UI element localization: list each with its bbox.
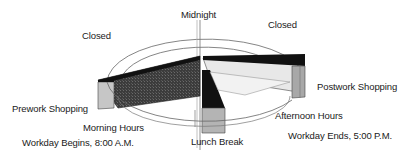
label-workday-ends: Workday Ends, 5:00 P.M. [288,130,392,141]
label-afternoon-hours: Afternoon Hours [275,110,343,121]
label-closed-left: Closed [82,30,111,41]
label-lunch-break: Lunch Break [191,136,243,147]
label-closed-right: Closed [268,19,297,30]
label-midnight: Midnight [181,9,216,20]
label-workday-begins: Workday Begins, 8:00 A.M. [22,137,134,148]
label-postwork-shopping: Postwork Shopping [317,81,397,92]
label-morning-hours: Morning Hours [83,122,144,133]
label-prework-shopping: Prework Shopping [12,103,88,114]
prework-shopping-box [98,82,114,109]
postwork-shopping-box [292,66,305,98]
